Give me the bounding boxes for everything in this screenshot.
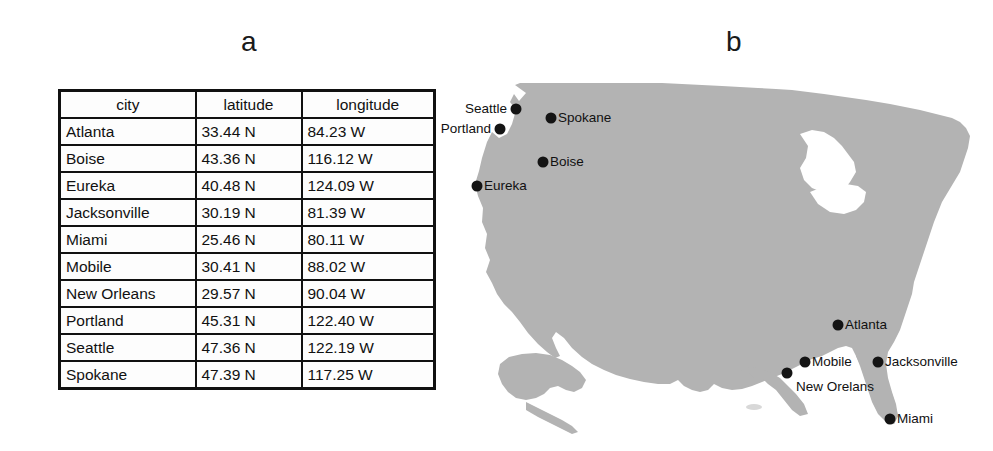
table-row: Atlanta33.44 N84.23 W [60,118,435,145]
latitude-cell: 45.31 N [196,307,302,334]
map-marker-portland [495,124,506,135]
map-label-miami: Miami [897,412,933,426]
city-cell: Mobile [60,253,196,280]
map-label-spokane: Spokane [558,111,611,125]
city-cell: New Orleans [60,280,196,307]
map-label-mobile: Mobile [812,355,852,369]
map-marker-seattle [511,104,522,115]
city-cell: Boise [60,145,196,172]
latitude-cell: 29.57 N [196,280,302,307]
cities-table-body: Atlanta33.44 N84.23 WBoise43.36 N116.12 … [60,118,435,389]
city-cell: Portland [60,307,196,334]
map-label-portland: Portland [441,122,491,136]
panel-a-table: city latitude longitude Atlanta33.44 N84… [58,89,433,390]
table-row: Spokane47.39 N117.25 W [60,361,435,389]
table-row: Miami25.46 N80.11 W [60,226,435,253]
longitude-cell: 81.39 W [302,199,435,226]
map-marker-jacksonville [873,357,884,368]
panel-label-b: b [726,28,742,56]
cities-table: city latitude longitude Atlanta33.44 N84… [58,89,436,390]
map-label-new-orleans: New Orelans [796,380,874,394]
map-marker-spokane [546,113,557,124]
city-cell: Jacksonville [60,199,196,226]
map-marker-eureka [472,181,483,192]
panel-b-map: SeattlePortlandSpokaneBoiseEurekaAtlanta… [452,72,993,451]
table-row: Mobile30.41 N88.02 W [60,253,435,280]
column-header-longitude: longitude [302,91,435,119]
latitude-cell: 33.44 N [196,118,302,145]
map-label-boise: Boise [550,155,584,169]
panel-label-a: a [241,28,257,56]
map-label-seattle: Seattle [465,102,507,116]
city-cell: Atlanta [60,118,196,145]
longitude-cell: 116.12 W [302,145,435,172]
city-cell: Spokane [60,361,196,389]
longitude-cell: 90.04 W [302,280,435,307]
longitude-cell: 84.23 W [302,118,435,145]
column-header-city: city [60,91,196,119]
longitude-cell: 80.11 W [302,226,435,253]
city-cell: Eureka [60,172,196,199]
table-row: Portland45.31 N122.40 W [60,307,435,334]
map-marker-new-orleans [782,368,793,379]
gulf-speck [746,404,762,410]
latitude-cell: 30.19 N [196,199,302,226]
longitude-cell: 122.19 W [302,334,435,361]
city-cell: Seattle [60,334,196,361]
map-label-atlanta: Atlanta [845,318,887,332]
latitude-cell: 30.41 N [196,253,302,280]
map-marker-mobile [800,357,811,368]
map-label-jacksonville: Jacksonville [885,355,958,369]
latitude-cell: 25.46 N [196,226,302,253]
table-row: Seattle47.36 N122.19 W [60,334,435,361]
map-marker-boise [538,157,549,168]
longitude-cell: 88.02 W [302,253,435,280]
map-marker-miami [885,414,896,425]
table-header-row: city latitude longitude [60,91,435,119]
map-marker-atlanta [833,320,844,331]
longitude-cell: 122.40 W [302,307,435,334]
city-cell: Miami [60,226,196,253]
latitude-cell: 47.36 N [196,334,302,361]
table-row: Boise43.36 N116.12 W [60,145,435,172]
latitude-cell: 43.36 N [196,145,302,172]
map-label-eureka: Eureka [484,179,527,193]
latitude-cell: 40.48 N [196,172,302,199]
latitude-cell: 47.39 N [196,361,302,389]
longitude-cell: 124.09 W [302,172,435,199]
column-header-latitude: latitude [196,91,302,119]
longitude-cell: 117.25 W [302,361,435,389]
table-row: Eureka40.48 N124.09 W [60,172,435,199]
table-row: Jacksonville30.19 N81.39 W [60,199,435,226]
us-map-graphic [452,72,993,451]
table-row: New Orleans29.57 N90.04 W [60,280,435,307]
